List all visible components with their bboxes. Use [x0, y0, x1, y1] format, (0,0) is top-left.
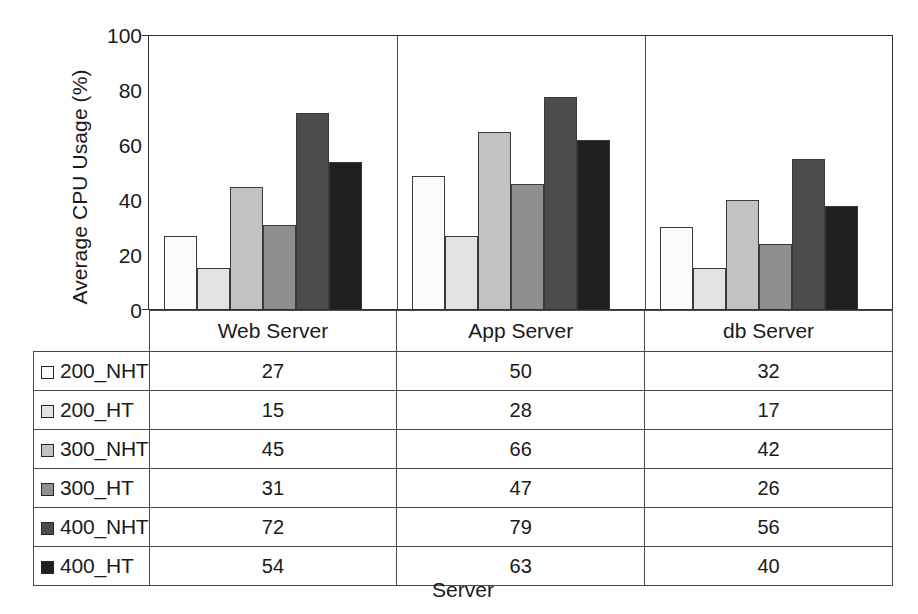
bar-300_nht-db-server	[726, 200, 759, 309]
bar-200_nht-db-server	[660, 227, 693, 309]
y-tick-label-40: 40	[96, 190, 142, 211]
cell-400_nht-db-server: 56	[645, 508, 893, 547]
legend-cell-200_nht: 200_NHT	[34, 352, 150, 391]
bar-400_ht-db-server	[825, 206, 858, 309]
group-separator-1	[397, 36, 398, 309]
bar-300_nht-web-server	[230, 187, 263, 309]
table-row: 200_HT152817	[34, 391, 893, 430]
table-row: 300_NHT456642	[34, 430, 893, 469]
cell-400_nht-web-server: 72	[149, 508, 397, 547]
cpu-usage-chart-figure: Average CPU Usage (%) 020406080100 Web S…	[0, 0, 918, 614]
bar-400_ht-web-server	[329, 162, 362, 309]
bar-group-web-server	[164, 36, 362, 309]
legend-cell-300_ht: 300_HT	[34, 469, 150, 508]
data-table: Web ServerApp Serverdb Server200_NHT2750…	[33, 310, 893, 586]
y-tick-label-60: 60	[96, 135, 142, 156]
table-row: 200_NHT275032	[34, 352, 893, 391]
y-axis-title: Average CPU Usage (%)	[68, 37, 92, 337]
plot-area	[148, 35, 893, 310]
cell-200_nht-app-server: 50	[397, 352, 645, 391]
cell-300_ht-db-server: 26	[645, 469, 893, 508]
y-tick-label-80: 80	[96, 80, 142, 101]
legend-label: 300_HT	[60, 476, 134, 499]
bar-300_ht-db-server	[759, 244, 792, 309]
y-tick-label-100: 100	[96, 25, 142, 46]
legend-swatch-icon-300_nht	[41, 444, 54, 457]
legend-swatch-icon-300_ht	[41, 483, 54, 496]
legend-label: 200_HT	[60, 398, 134, 421]
cell-200_ht-db-server: 17	[645, 391, 893, 430]
legend-label: 400_NHT	[60, 515, 148, 538]
bar-300_nht-app-server	[478, 132, 511, 309]
bar-200_ht-app-server	[445, 236, 478, 309]
cell-200_nht-web-server: 27	[149, 352, 397, 391]
bar-300_ht-web-server	[263, 225, 296, 309]
bar-400_ht-app-server	[577, 140, 610, 309]
legend-cell-300_nht: 300_NHT	[34, 430, 150, 469]
y-tick-label-20: 20	[96, 245, 142, 266]
cell-400_nht-app-server: 79	[397, 508, 645, 547]
legend-label: 400_HT	[60, 554, 134, 577]
bar-400_nht-web-server	[296, 113, 329, 309]
legend-swatch-icon-200_nht	[41, 366, 54, 379]
bar-200_nht-web-server	[164, 236, 197, 309]
cell-300_nht-app-server: 66	[397, 430, 645, 469]
column-header-app-server: App Server	[397, 311, 645, 352]
cell-300_nht-db-server: 42	[645, 430, 893, 469]
legend-swatch-icon-200_ht	[41, 405, 54, 418]
cell-300_ht-web-server: 31	[149, 469, 397, 508]
table-header-row: Web ServerApp Serverdb Server	[34, 311, 893, 352]
bar-400_nht-app-server	[544, 97, 577, 309]
bar-200_nht-app-server	[412, 176, 445, 309]
bar-group-db-server	[660, 36, 858, 309]
y-axis-tick-labels: 020406080100	[94, 35, 142, 310]
legend-cell-400_nht: 400_NHT	[34, 508, 150, 547]
cell-300_nht-web-server: 45	[149, 430, 397, 469]
cell-200_nht-db-server: 32	[645, 352, 893, 391]
bar-200_ht-web-server	[197, 268, 230, 309]
legend-label: 200_NHT	[60, 359, 148, 382]
legend-swatch-icon-400_nht	[41, 522, 54, 535]
bar-group-app-server	[412, 36, 610, 309]
column-header-db-server: db Server	[645, 311, 893, 352]
group-separator-2	[645, 36, 646, 309]
legend-swatch-icon-400_ht	[41, 561, 54, 574]
column-header-web-server: Web Server	[149, 311, 397, 352]
x-axis-title: Server	[33, 578, 893, 602]
legend-label: 300_NHT	[60, 437, 148, 460]
cell-200_ht-web-server: 15	[149, 391, 397, 430]
bar-300_ht-app-server	[511, 184, 544, 309]
table-row: 300_HT314726	[34, 469, 893, 508]
cell-300_ht-app-server: 47	[397, 469, 645, 508]
cell-200_ht-app-server: 28	[397, 391, 645, 430]
legend-cell-200_ht: 200_HT	[34, 391, 150, 430]
table-corner-cell	[34, 311, 150, 352]
bar-200_ht-db-server	[693, 268, 726, 309]
table-row: 400_NHT727956	[34, 508, 893, 547]
bar-400_nht-db-server	[792, 159, 825, 309]
